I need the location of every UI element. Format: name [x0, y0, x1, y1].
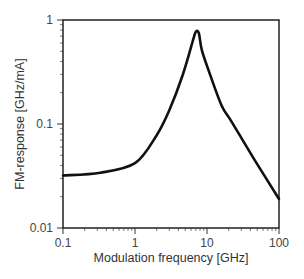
x-tick-labels: 0.1110100 — [55, 236, 290, 250]
x-tick-label: 100 — [269, 236, 289, 250]
y-tick-label: 1 — [46, 13, 53, 27]
y-tick-label: 0.1 — [36, 117, 53, 131]
minor-ticks — [60, 25, 276, 231]
x-tick-label: 1 — [132, 236, 139, 250]
fm-response-curve — [63, 31, 279, 199]
major-ticks — [57, 20, 279, 234]
y-axis-title: FM-response [GHz/mA] — [13, 58, 27, 189]
chart: 0.1110100 0.010.11 Modulation frequency … — [0, 0, 304, 279]
y-tick-labels: 0.010.11 — [30, 13, 54, 235]
y-tick-label: 0.01 — [30, 221, 54, 235]
x-tick-label: 10 — [200, 236, 214, 250]
x-tick-label: 0.1 — [55, 236, 72, 250]
x-axis-title: Modulation frequency [GHz] — [94, 251, 249, 265]
plot-frame — [63, 20, 279, 228]
